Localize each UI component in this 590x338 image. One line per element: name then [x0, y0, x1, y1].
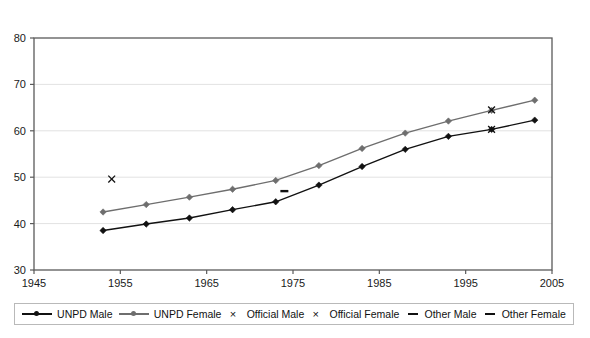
legend-item-label: Other Male [425, 308, 477, 320]
legend-item-label: UNPD Female [154, 308, 222, 320]
legend-item-label: Other Female [502, 308, 566, 320]
series-line [103, 120, 535, 230]
legend-item-unpd-female[interactable]: UNPD Female [119, 308, 222, 320]
data-point [316, 162, 322, 168]
data-point [186, 194, 192, 200]
legend-cross-icon: × [228, 308, 242, 320]
x-tick-label: 1965 [194, 277, 218, 289]
data-point [143, 221, 149, 227]
chart-plot-area: 304050607080 194519551965197519851995200… [0, 0, 590, 300]
data-point [100, 227, 106, 233]
x-tick-label: 1955 [108, 277, 132, 289]
data-point [359, 145, 365, 151]
legend-line-marker-icon [22, 308, 52, 320]
y-tick-label: 40 [14, 218, 26, 230]
data-point [229, 186, 235, 192]
y-tick-label: 50 [14, 171, 26, 183]
legend-diamond-icon [34, 311, 39, 316]
data-point [229, 206, 235, 212]
cross-icon: × [312, 308, 318, 320]
plot-border [34, 38, 552, 270]
cross-icon: × [230, 308, 236, 320]
data-point [143, 201, 149, 207]
x-tick-label: 1985 [367, 277, 391, 289]
legend-item-official-male[interactable]: ×Official Male [228, 308, 305, 320]
data-point [273, 199, 279, 205]
series-line [103, 100, 535, 212]
legend-item-label: Official Male [247, 308, 305, 320]
series-unpd-female [100, 97, 538, 215]
x-tick-label: 2005 [540, 277, 564, 289]
legend-diamond-icon [131, 311, 136, 316]
y-tick-label: 30 [14, 264, 26, 276]
legend-item-label: UNPD Male [57, 308, 112, 320]
series-official-male [108, 126, 495, 182]
plot-frame [34, 38, 552, 270]
dash-icon [485, 313, 495, 316]
data-point [402, 146, 408, 152]
data-point [316, 182, 322, 188]
data-point [445, 133, 451, 139]
legend-item-label: Official Female [329, 308, 399, 320]
line-chart: 304050607080 194519551965197519851995200… [0, 0, 590, 338]
y-tick-label: 70 [14, 78, 26, 90]
data-series-layer [100, 97, 538, 234]
data-point [532, 97, 538, 103]
y-tick-label: 60 [14, 125, 26, 137]
y-axis-labels: 304050607080 [14, 32, 26, 276]
data-point-cross [108, 176, 115, 183]
legend-item-other-male[interactable]: Other Male [406, 308, 477, 320]
legend-dash-icon [483, 308, 497, 320]
data-point [273, 177, 279, 183]
legend-line-marker-icon [119, 308, 149, 320]
x-tick-label: 1945 [22, 277, 46, 289]
dash-icon [408, 313, 418, 316]
data-point [186, 215, 192, 221]
legend-item-other-female[interactable]: Other Female [483, 308, 566, 320]
gridlines [34, 84, 552, 223]
legend-cross-icon: × [310, 308, 324, 320]
legend-item-official-female[interactable]: ×Official Female [310, 308, 399, 320]
legend-dash-icon [406, 308, 420, 320]
x-axis-labels: 1945195519651975198519952005 [22, 277, 564, 289]
data-point [445, 118, 451, 124]
x-tick-label: 1975 [281, 277, 305, 289]
data-point [532, 117, 538, 123]
chart-legend: UNPD MaleUNPD Female×Official Male×Offic… [14, 303, 574, 325]
series-unpd-male [100, 117, 538, 234]
x-tick-label: 1995 [453, 277, 477, 289]
y-tick-label: 80 [14, 32, 26, 44]
data-point [359, 163, 365, 169]
legend-item-unpd-male[interactable]: UNPD Male [22, 308, 112, 320]
data-point [100, 209, 106, 215]
